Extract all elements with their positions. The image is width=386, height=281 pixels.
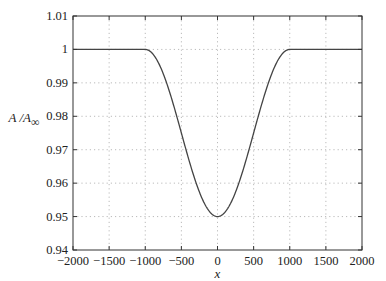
x-tick-label: 1000: [277, 254, 302, 268]
x-axis-label: x: [214, 266, 221, 281]
y-tick-label: 1.01: [46, 9, 68, 23]
y-tick-label: 0.97: [46, 143, 68, 157]
grid-lines: [73, 16, 362, 250]
data-series-line: [73, 49, 362, 216]
y-tick-label: 1: [62, 42, 68, 56]
axis-ticks: [73, 16, 362, 250]
line-chart: −2000−1500−1000−5000500100015002000 0.94…: [0, 0, 386, 281]
x-tick-label: −1000: [129, 254, 161, 268]
y-tick-label: 0.99: [46, 76, 68, 90]
y-tick-label: 0.96: [46, 176, 68, 190]
x-tick-label: −500: [168, 254, 194, 268]
x-tick-label: −1500: [93, 254, 125, 268]
y-tick-label: 0.94: [46, 243, 69, 257]
y-tick-label: 0.95: [46, 210, 68, 224]
x-tick-label: 500: [244, 254, 263, 268]
x-tick-label: 2000: [350, 254, 375, 268]
plot-frame: [73, 16, 362, 250]
y-axis-label: A /A∞: [7, 110, 39, 129]
y-tick-labels: 0.940.950.960.970.980.9911.01: [46, 9, 69, 257]
series-curve: [73, 49, 362, 216]
y-tick-label: 0.98: [46, 109, 68, 123]
x-tick-label: 1500: [313, 254, 338, 268]
